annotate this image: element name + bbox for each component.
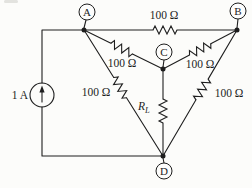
node-a-badge: A (79, 4, 95, 28)
resistor-cb (188, 40, 213, 58)
node-b-label: B (234, 5, 241, 17)
branch-cd-load (159, 69, 167, 156)
node-c-badge: C (156, 44, 172, 67)
resistor-ac (109, 40, 134, 58)
node-b-badge: B (230, 3, 246, 28)
node-d-badge: D (156, 158, 172, 179)
scan-artifact (4, 0, 18, 3)
resistor-bd-value: 100 Ω (215, 87, 244, 99)
circuit-diagram: A B C D 1 A 100 Ω 100 Ω 100 Ω 100 Ω 100 … (0, 0, 252, 188)
load-resistor-label: RL (137, 100, 150, 115)
resistor-ad (110, 75, 130, 100)
resistor-ad-value: 100 Ω (82, 86, 111, 98)
resistor-ab (153, 26, 177, 34)
wire-a-to-source (42, 30, 84, 83)
node-a-label: A (83, 6, 91, 18)
node-c-label: C (160, 46, 167, 58)
branch-ab (84, 26, 237, 34)
resistor-cb-value: 100 Ω (186, 58, 215, 70)
resistor-ac-value: 100 Ω (108, 57, 137, 69)
resistor-load (159, 99, 167, 123)
source-value-label: 1 A (12, 89, 29, 101)
circuit-figure: A B C D 1 A 100 Ω 100 Ω 100 Ω 100 Ω 100 … (0, 0, 252, 188)
resistor-bd (193, 77, 212, 102)
current-source (30, 83, 54, 107)
resistor-ab-value: 100 Ω (150, 9, 179, 21)
node-d-label: D (160, 165, 168, 177)
up-arrow-icon (39, 86, 44, 103)
